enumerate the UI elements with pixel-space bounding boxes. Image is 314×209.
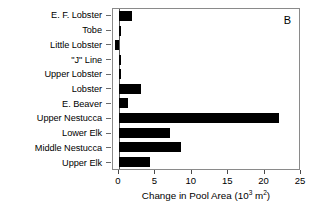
category-label: Tobe [82,25,104,35]
bar [119,69,121,79]
tick-mark [106,147,111,148]
plot-frame: B [112,8,300,170]
category-axis-labels: E. F. LobsterTobeLittle Lobster"J" LineU… [0,8,104,170]
x-axis-tick-label: 25 [295,175,306,186]
category-label: "J" Line [71,55,104,65]
category-label: Upper Nestucca [37,113,104,123]
bar-row [113,55,299,65]
x-axis-tick [118,170,119,174]
bars-container [113,9,299,169]
category-label: Middle Nestucca [35,143,104,153]
bar-row [113,113,299,123]
tick-mark [106,74,111,75]
x-axis-tick-label: 15 [222,175,233,186]
bar-row [113,142,299,152]
bar [119,128,170,138]
x-axis-tick [227,170,228,174]
bar-row [113,128,299,138]
tick-mark [106,44,111,45]
bar [119,142,181,152]
bar [119,55,121,65]
x-axis-title-unit: m [252,190,263,201]
x-axis-tick [154,170,155,174]
category-label: Lower Elk [62,128,104,138]
x-axis-tick-label: 0 [115,175,120,186]
x-axis-tick [300,170,301,174]
tick-mark [106,30,111,31]
bar [119,26,121,36]
x-axis-tick-label: 20 [258,175,269,186]
bar-row [113,98,299,108]
tick-mark [106,15,111,16]
bar-row [113,84,299,94]
bar-row [113,11,299,21]
bar [119,11,132,21]
bar [119,157,150,167]
category-label: Upper Lobster [44,69,104,79]
bar-row [113,69,299,79]
category-label: Lobster [72,84,104,94]
category-label: E. Beaver [62,99,104,109]
tick-mark [106,162,111,163]
category-label: E. F. Lobster [51,10,104,20]
bar [119,84,141,94]
tick-mark [106,118,111,119]
x-axis-tick [264,170,265,174]
bar-chart-figure: E. F. LobsterTobeLittle Lobster"J" LineU… [0,0,314,209]
bar [119,98,128,108]
x-axis-title-main: Change in Pool Area (10 [142,190,249,201]
tick-mark [106,133,111,134]
x-axis-title-close: ) [267,190,270,201]
tick-mark [106,88,111,89]
bar [115,40,119,50]
category-label: Upper Elk [62,158,104,168]
x-axis-tick-label: 5 [152,175,157,186]
tick-mark [106,59,111,60]
panel-label: B [284,14,291,26]
bar [119,113,279,123]
bar-row [113,40,299,50]
x-axis-tick-label: 10 [186,175,197,186]
category-label: Little Lobster [50,40,104,50]
tick-mark [106,103,111,104]
bar-row [113,157,299,167]
x-axis-title: Change in Pool Area (103 m2) [112,189,300,201]
x-axis-tick [191,170,192,174]
bar-row [113,26,299,36]
